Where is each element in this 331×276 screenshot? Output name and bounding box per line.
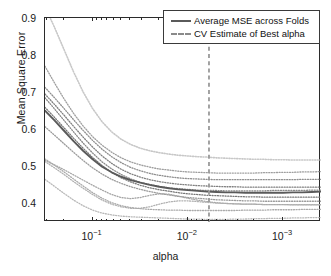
legend-solid-line-icon bbox=[168, 14, 194, 27]
x-minor-tick-mark bbox=[253, 219, 254, 222]
legend-label-cv-best-alpha: CV Estimate of Best alpha bbox=[194, 27, 305, 40]
x-minor-tick-mark bbox=[225, 219, 226, 222]
legend-dashed-line-icon bbox=[168, 27, 194, 40]
chart-figure: Mean Square Error 0.40.50.60.70.80.9 10−… bbox=[0, 0, 331, 276]
x-minor-tick-mark bbox=[129, 219, 130, 222]
x-tick-label: 10−3 bbox=[260, 228, 304, 242]
x-tick-mark bbox=[92, 17, 93, 21]
x-minor-tick-mark bbox=[63, 219, 64, 222]
plot-area bbox=[44, 17, 320, 221]
x-minor-tick-mark bbox=[202, 219, 203, 222]
x-minor-tick-mark bbox=[196, 219, 197, 222]
legend-label-average-mse: Average MSE across Folds bbox=[194, 14, 309, 27]
x-minor-tick-mark bbox=[129, 17, 130, 20]
x-minor-tick-mark bbox=[113, 17, 114, 20]
x-minor-tick-mark bbox=[46, 219, 47, 222]
plot-curves bbox=[45, 18, 321, 222]
x-minor-tick-mark bbox=[101, 17, 102, 20]
x-minor-tick-mark bbox=[120, 219, 121, 222]
x-minor-tick-mark bbox=[101, 219, 102, 222]
series-fold-6 bbox=[45, 107, 321, 197]
legend-item-cv-best-alpha: CV Estimate of Best alpha bbox=[168, 27, 315, 40]
x-tick-mark bbox=[187, 217, 188, 221]
x-minor-tick-mark bbox=[106, 17, 107, 20]
x-tick-mark bbox=[92, 217, 93, 221]
chart-legend: Average MSE across Folds CV Estimate of … bbox=[163, 10, 320, 44]
y-tick-label: 0.5 bbox=[2, 161, 36, 171]
x-minor-tick-mark bbox=[216, 219, 217, 222]
x-minor-tick-mark bbox=[191, 219, 192, 222]
x-minor-tick-mark bbox=[158, 17, 159, 20]
x-minor-tick-mark bbox=[113, 219, 114, 222]
x-minor-tick-mark bbox=[208, 219, 209, 222]
x-minor-tick-mark bbox=[120, 17, 121, 20]
x-tick-label: 10−1 bbox=[70, 228, 114, 242]
series-fold-2 bbox=[45, 66, 321, 173]
series-fold-10 bbox=[45, 179, 321, 219]
x-minor-tick-mark bbox=[46, 17, 47, 20]
x-minor-tick-mark bbox=[106, 219, 107, 222]
series-fold-5 bbox=[45, 98, 321, 191]
x-tick-mark bbox=[282, 217, 283, 221]
legend-item-average-mse: Average MSE across Folds bbox=[168, 14, 315, 27]
x-axis-label: alpha bbox=[0, 250, 331, 262]
x-minor-tick-mark bbox=[96, 17, 97, 20]
series-fold-8 bbox=[45, 160, 321, 205]
y-tick-label: 0.7 bbox=[2, 87, 36, 97]
x-tick-label: 10−2 bbox=[165, 228, 209, 242]
y-tick-label: 0.8 bbox=[2, 50, 36, 60]
y-tick-label: 0.6 bbox=[2, 124, 36, 134]
series-fold-4 bbox=[45, 94, 321, 187]
x-minor-tick-mark bbox=[141, 17, 142, 20]
x-minor-tick-mark bbox=[141, 219, 142, 222]
x-minor-tick-mark bbox=[237, 219, 238, 222]
y-tick-label: 0.4 bbox=[2, 198, 36, 208]
y-tick-label: 0.9 bbox=[2, 13, 36, 23]
x-minor-tick-mark bbox=[63, 17, 64, 20]
x-minor-tick-mark bbox=[96, 219, 97, 222]
x-minor-tick-mark bbox=[158, 219, 159, 222]
series-fold-3 bbox=[45, 87, 321, 179]
